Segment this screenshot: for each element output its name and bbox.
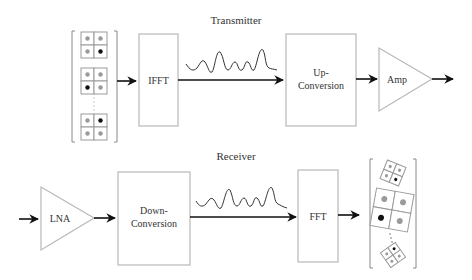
amp-label: Amp bbox=[387, 74, 407, 85]
symbol-grid bbox=[81, 114, 107, 140]
rx-waveform-icon bbox=[196, 187, 287, 208]
downconversion-label-line1: Down- bbox=[140, 205, 168, 216]
lna-label: LNA bbox=[50, 213, 71, 224]
ellipsis-dots bbox=[93, 97, 94, 110]
fft-block: FFT bbox=[298, 170, 338, 262]
downconversion-block: Down- Conversion bbox=[118, 172, 190, 265]
symbol-grid bbox=[370, 188, 414, 232]
right-bracket bbox=[413, 159, 416, 268]
right-bracket bbox=[114, 31, 117, 142]
downconversion-label-line2: Conversion bbox=[131, 218, 177, 229]
ofdm-transceiver-diagram: Transmitter bbox=[0, 0, 472, 280]
tx-waveform-icon bbox=[186, 49, 277, 72]
lna-block: LNA bbox=[41, 187, 94, 250]
upconversion-label-line2: Conversion bbox=[298, 80, 344, 91]
upconversion-label-line1: Up- bbox=[313, 67, 329, 78]
fft-label: FFT bbox=[309, 211, 326, 222]
symbol-grid bbox=[380, 160, 406, 186]
receiver-title: Receiver bbox=[216, 150, 255, 162]
rx-output-symbols bbox=[370, 159, 416, 268]
transmitter-title: Transmitter bbox=[211, 14, 262, 26]
symbol-grid bbox=[81, 68, 107, 94]
ifft-label: IFFT bbox=[148, 75, 169, 86]
receiver-chain: Receiver LNA Down- Conversion FFT bbox=[19, 150, 416, 268]
tx-input-symbols bbox=[72, 31, 117, 142]
symbol-grid bbox=[380, 242, 405, 267]
transmitter-chain: Transmitter bbox=[72, 14, 453, 142]
ifft-block: IFFT bbox=[139, 34, 178, 126]
left-bracket bbox=[72, 31, 75, 142]
upconversion-block: Up- Conversion bbox=[286, 34, 356, 126]
symbol-grid bbox=[81, 32, 107, 58]
amp-block: Amp bbox=[379, 48, 432, 111]
